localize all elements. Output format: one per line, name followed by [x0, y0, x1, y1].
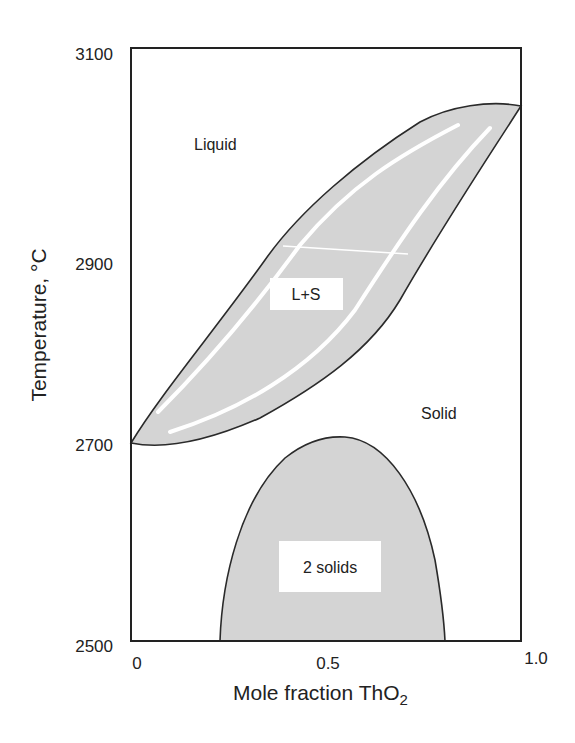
region-label-liquid: Liquid	[194, 136, 237, 153]
x-axis-title: Mole fraction ThO2	[233, 681, 408, 708]
region-label-solid: Solid	[421, 405, 457, 422]
x-tick-0: 0	[132, 654, 141, 673]
x-tick-1-0: 1.0	[524, 649, 548, 668]
region-label-two-solids: 2 solids	[303, 559, 357, 576]
y-tick-2500: 2500	[75, 637, 113, 656]
liquid-solid-region	[131, 104, 521, 445]
y-tick-3100: 3100	[75, 45, 113, 64]
y-tick-2900: 2900	[75, 255, 113, 274]
x-tick-0-5: 0.5	[316, 654, 340, 673]
y-tick-2700: 2700	[75, 436, 113, 455]
x-axis-title-subscript: 2	[400, 691, 408, 708]
two-solids-region	[220, 437, 445, 641]
phase-diagram-chart: 3100 2900 2700 2500 0 0.5 1.0 Mole fract…	[0, 0, 575, 743]
y-axis-title: Temperature, °C	[27, 248, 50, 401]
region-label-l-plus-s: L+S	[292, 286, 321, 303]
x-axis-title-main: Mole fraction ThO	[233, 681, 400, 704]
